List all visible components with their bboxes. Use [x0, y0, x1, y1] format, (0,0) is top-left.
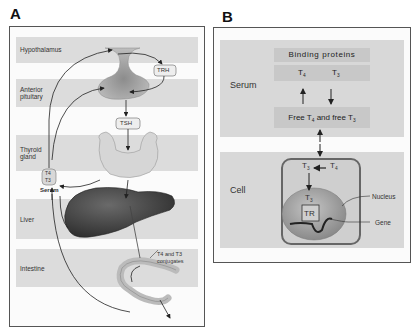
cell-t3-label: T3	[302, 161, 310, 173]
nuclear-t3-label: T3	[305, 193, 313, 205]
gene-label: Gene	[375, 219, 391, 226]
cell-t4-label: T4	[330, 161, 338, 173]
tr-label: TR	[304, 209, 315, 218]
panel-b-illustration	[0, 0, 418, 335]
nucleus-label: Nucleus	[372, 193, 395, 200]
